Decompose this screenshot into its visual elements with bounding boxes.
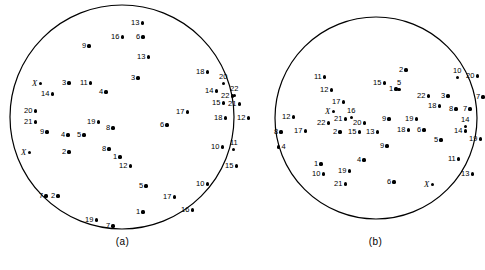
data-point: 5 bbox=[434, 136, 443, 144]
data-point: 4 bbox=[357, 156, 366, 164]
data-point-label: 19 bbox=[87, 118, 95, 126]
data-point-marker-icon bbox=[431, 183, 434, 186]
data-point: 15 bbox=[373, 79, 386, 87]
data-point: 3 bbox=[62, 79, 71, 87]
data-point-marker-icon bbox=[215, 89, 218, 92]
data-point: 11 bbox=[448, 155, 460, 163]
data-point-marker-icon bbox=[34, 109, 37, 112]
data-point-label: 6 bbox=[160, 121, 164, 129]
data-point-label: 21 bbox=[228, 100, 236, 108]
data-point-label: 2 bbox=[51, 192, 55, 200]
data-point-label: 11 bbox=[80, 79, 88, 87]
data-point-label: 1 bbox=[389, 85, 393, 93]
data-point-marker-icon bbox=[231, 94, 234, 97]
data-point-label: 15 bbox=[373, 79, 381, 87]
data-point-label: 4 bbox=[61, 131, 65, 139]
data-point: 9 bbox=[40, 128, 49, 136]
data-point-marker-icon bbox=[67, 150, 70, 153]
data-point-marker-icon bbox=[330, 88, 333, 91]
data-point: 17 bbox=[332, 98, 345, 106]
panel-b-circle-outline bbox=[272, 0, 482, 235]
data-point: 21 bbox=[334, 180, 347, 188]
data-point-label: 20 bbox=[24, 107, 32, 115]
data-point: 19 bbox=[469, 135, 482, 143]
data-point-marker-icon bbox=[479, 137, 482, 140]
data-point-label: 20 bbox=[353, 119, 361, 127]
data-point: 7 bbox=[106, 222, 115, 230]
data-point-label: 12 bbox=[237, 114, 245, 122]
data-point-label: 19 bbox=[338, 167, 346, 175]
data-point: 16 bbox=[347, 107, 355, 119]
data-point-label: 2 bbox=[333, 128, 337, 136]
data-point-label: 8 bbox=[102, 145, 106, 153]
data-point: 2 bbox=[62, 148, 71, 156]
data-point-marker-icon bbox=[224, 116, 227, 119]
data-point-marker-icon bbox=[304, 129, 307, 132]
data-point: 10 bbox=[196, 180, 209, 188]
data-point: 6 bbox=[387, 178, 396, 186]
data-point: 22 bbox=[317, 119, 330, 127]
data-point-marker-icon bbox=[415, 117, 418, 120]
data-point: 12 bbox=[320, 86, 333, 94]
data-point: X bbox=[424, 180, 434, 189]
data-point-label: 22 bbox=[317, 119, 325, 127]
data-point-label: 4 bbox=[281, 143, 285, 151]
data-point-label: 12 bbox=[119, 162, 127, 170]
data-point: X bbox=[32, 79, 42, 88]
data-point: 13 bbox=[131, 19, 144, 27]
data-point-marker-icon bbox=[104, 90, 107, 93]
data-point-label: 10 bbox=[196, 180, 204, 188]
data-point-marker-icon bbox=[383, 81, 386, 84]
data-point-label: 18 bbox=[428, 102, 436, 110]
data-point-label: 3 bbox=[131, 74, 135, 82]
data-point: 12 bbox=[282, 113, 295, 121]
data-point-marker-icon bbox=[97, 120, 100, 123]
data-point-label: 9 bbox=[380, 142, 384, 150]
data-point: 6 bbox=[160, 121, 169, 129]
data-point-label: 17 bbox=[294, 127, 302, 135]
data-point: 12 bbox=[119, 162, 132, 170]
data-point-label: 11 bbox=[314, 73, 322, 81]
data-point-label: 3 bbox=[441, 92, 445, 100]
data-point-label: 5 bbox=[77, 131, 81, 139]
data-point: 15 bbox=[348, 128, 361, 136]
data-point-marker-icon bbox=[221, 145, 224, 148]
data-point-label: 5 bbox=[139, 182, 143, 190]
data-point-marker-icon bbox=[121, 35, 124, 38]
data-point: 6 bbox=[136, 33, 145, 41]
data-point: 4 bbox=[99, 88, 108, 96]
data-point-marker-icon bbox=[404, 68, 407, 71]
data-point-marker-icon bbox=[222, 101, 225, 104]
data-point-label: 2 bbox=[399, 66, 403, 74]
data-point-label: 14 bbox=[41, 90, 49, 98]
data-point: X bbox=[21, 148, 31, 157]
data-point-marker-icon bbox=[173, 195, 176, 198]
data-point: 10 bbox=[211, 143, 224, 151]
data-point-label: 1 bbox=[113, 153, 117, 161]
data-point-marker-icon bbox=[344, 117, 347, 120]
data-point-marker-icon bbox=[247, 116, 250, 119]
data-point-label: 3 bbox=[62, 79, 66, 87]
data-point-marker-icon bbox=[471, 172, 474, 175]
data-point: 18 bbox=[428, 102, 441, 110]
data-point: 20 bbox=[24, 107, 37, 115]
data-point-label: 15 bbox=[212, 99, 220, 107]
data-point-marker-icon bbox=[277, 145, 280, 148]
data-point: 8 bbox=[106, 124, 115, 132]
data-point-marker-icon bbox=[34, 120, 37, 123]
data-point-marker-icon bbox=[468, 107, 471, 110]
data-point: 21 bbox=[228, 100, 241, 108]
data-point-marker-icon bbox=[111, 126, 114, 129]
data-point-label: 12 bbox=[320, 86, 328, 94]
data-point: 18 bbox=[397, 126, 410, 134]
data-point-label: 14 bbox=[205, 87, 213, 95]
data-point-label: 8 bbox=[274, 128, 278, 136]
data-point-marker-icon bbox=[147, 55, 150, 58]
data-point-label: 13 bbox=[137, 53, 145, 61]
data-point: 16 bbox=[181, 206, 194, 214]
data-point-marker-icon bbox=[222, 82, 225, 85]
data-point: 7 bbox=[476, 93, 485, 101]
panel-b-caption: (b) bbox=[272, 236, 479, 247]
data-point: 13 bbox=[366, 128, 379, 136]
